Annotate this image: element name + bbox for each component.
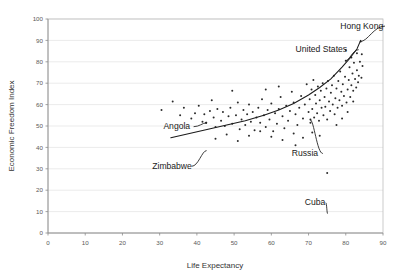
data-point [356,52,358,54]
data-point [295,144,297,146]
data-point [278,85,280,87]
data-point [306,83,308,85]
data-point [361,53,363,55]
x-tick-label: 70 [305,239,312,246]
x-tick-label: 0 [46,239,50,246]
data-point [348,79,350,81]
scatter-plot: 0102030405060708090100 01020304050607080… [0,0,407,278]
y-tick-label: 0 [40,229,44,236]
annotation-label-united-states: United States [296,44,348,54]
data-point [356,69,358,71]
data-point [276,123,278,125]
data-point [302,137,304,139]
data-point [215,138,217,140]
data-point [248,135,250,137]
x-tick-label: 60 [268,239,275,246]
data-point [308,111,310,113]
data-point [267,109,269,111]
data-point [226,134,228,136]
annotation-label-russia: Russia [292,148,318,158]
data-point [331,84,333,86]
data-point [309,98,311,100]
data-point [228,115,230,117]
annotation-label-cuba: Cuba [305,197,326,207]
data-point [254,129,256,131]
data-point [220,120,222,122]
data-point [312,79,314,81]
data-point [268,119,270,121]
data-point [313,116,315,118]
data-point [291,91,293,93]
data-point [248,104,250,106]
data-point [349,66,351,68]
y-tick-label: 20 [36,186,43,193]
data-point [296,124,298,126]
data-point [222,111,224,113]
data-point [341,118,343,120]
chart-container: 0102030405060708090100 01020304050607080… [0,0,407,278]
data-point [339,70,341,72]
data-point [349,96,351,98]
data-point [314,94,316,96]
data-point [354,78,356,80]
data-point [203,113,205,115]
data-point [270,136,272,138]
data-point [346,101,348,103]
data-point [353,62,355,64]
data-point [315,103,317,105]
data-point [341,105,343,107]
x-tick-label: 90 [380,239,387,246]
data-point [209,110,211,112]
data-point [287,120,289,122]
x-tick-label: 80 [342,239,349,246]
data-point [179,114,181,116]
data-point [282,115,284,117]
data-point [231,90,233,92]
data-point [311,131,313,133]
y-tick-label: 70 [36,79,43,86]
data-point [293,132,295,134]
data-point [362,65,364,67]
data-point [342,83,344,85]
data-point [351,73,353,75]
y-tick-label: 100 [33,15,44,22]
data-point [337,107,339,109]
data-point [319,99,321,101]
data-point [334,113,336,115]
y-tick-label: 50 [36,122,43,129]
data-point [261,98,263,100]
data-point [322,82,324,84]
data-point [280,96,282,98]
data-point [244,124,246,126]
data-point [335,124,337,126]
data-point [320,90,322,92]
data-point [316,112,318,114]
x-axis-title: Life Expectancy [187,261,243,270]
data-point [300,95,302,97]
data-point [237,101,239,103]
data-point [274,112,276,114]
data-point [352,100,354,102]
data-points [161,40,364,174]
data-point [298,107,300,109]
data-point [302,118,304,120]
x-tick-label: 20 [119,239,126,246]
data-point [194,112,196,114]
data-point [259,130,261,132]
data-point [239,128,241,130]
data-point [201,121,203,123]
y-axis-title: Economic Freedom Index [7,80,16,171]
data-point [304,104,306,106]
data-point [324,96,326,98]
data-point [198,105,200,107]
data-point [183,107,185,109]
data-point [265,89,267,91]
leader-line-cuba [326,203,327,214]
data-point [242,109,244,111]
data-point [359,61,361,63]
data-point [213,116,215,118]
data-point [344,76,346,78]
data-point [190,118,192,120]
data-point [265,126,267,128]
data-point [326,119,328,121]
